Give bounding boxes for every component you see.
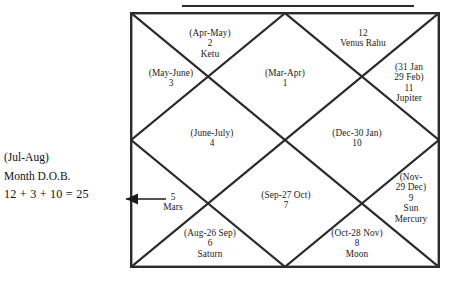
vedic-birth-chart: (Apr-May) 2 Ketu 12 Venus Rahu (May-June… [130,12,440,268]
house-6-number: 6 [160,238,260,248]
annotation-label: Month D.O.B. [4,167,154,186]
house-11-planets: Jupiter [382,93,436,103]
house-1-number: 1 [238,78,332,88]
house-3[interactable]: (May-June) 3 [132,68,210,89]
annotation-month-range: (Jul-Aug) [4,148,154,167]
house-3-number: 3 [132,78,210,88]
house-12-planets: Venus Rahu [318,38,408,48]
house-3-range: (May-June) [132,68,210,78]
house-9-number: 9 [384,193,438,203]
house-9-planets-line2: Mercury [384,214,438,224]
title-underline [182,5,414,7]
house-7-range: (Sep-27 Oct) [236,190,336,200]
house-7-number: 7 [236,200,336,210]
house-7[interactable]: (Sep-27 Oct) 7 [236,190,336,211]
house-10-number: 10 [308,138,406,148]
house-12[interactable]: 12 Venus Rahu [318,28,408,49]
house-9-range-line2: 29 Dec) [384,182,438,192]
house-8-planets: Moon [308,249,406,259]
house-11-range-line2: 29 Feb) [382,72,436,82]
house-11[interactable]: (31 Jan 29 Feb) 11 Jupiter [382,62,436,104]
house-9-range-line1: (Nov- [384,172,438,182]
house-9-planets-line1: Sun [384,203,438,213]
house-12-number: 12 [318,28,408,38]
house-4-range: (June-July) [166,128,258,138]
house-2-number: 2 [168,38,252,48]
house-8-range: (Oct-28 Nov) [308,228,406,238]
house-6-range: (Aug-26 Sep) [160,228,260,238]
house-2[interactable]: (Apr-May) 2 Ketu [168,28,252,59]
house-6-planets: Saturn [160,249,260,259]
house-8-number: 8 [308,238,406,248]
house-11-number: 11 [382,83,436,93]
house-1[interactable]: (Mar-Apr) 1 [238,68,332,89]
house-4-number: 4 [166,138,258,148]
house-11-range-line1: (31 Jan [382,62,436,72]
house-10-range: (Dec-30 Jan) [308,128,406,138]
pointer-arrow-icon [112,190,168,208]
house-8[interactable]: (Oct-28 Nov) 8 Moon [308,228,406,259]
house-6[interactable]: (Aug-26 Sep) 6 Saturn [160,228,260,259]
house-2-range: (Apr-May) [168,28,252,38]
house-1-range: (Mar-Apr) [238,68,332,78]
house-9[interactable]: (Nov- 29 Dec) 9 Sun Mercury [384,172,438,224]
house-10[interactable]: (Dec-30 Jan) 10 [308,128,406,149]
house-4[interactable]: (June-July) 4 [166,128,258,149]
house-2-planets: Ketu [168,49,252,59]
